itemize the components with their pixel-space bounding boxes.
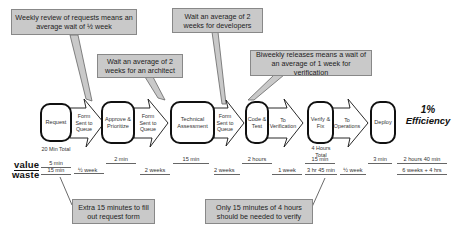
waste-cell-request: 15 min (41, 166, 71, 175)
process-request: Request (40, 103, 72, 142)
process-technical-assessment: Technical Assessment (170, 101, 215, 144)
value-cell-verify: 15 min (305, 155, 335, 164)
transition-label-1: Form Sent to Queue (72, 110, 96, 136)
transition-label-3: Form Sent to Queue (214, 110, 236, 136)
process-approve-label: Approve & Prioritize (103, 116, 133, 130)
waste-cell-queue-1: ½ week (74, 166, 104, 174)
value-cell-code: 2 hours (242, 155, 272, 164)
process-request-label: Request (46, 119, 67, 126)
request-total-note: 20 Min Total (33, 146, 79, 153)
waste-cell-queue-3: 2 weeks (214, 166, 240, 175)
efficiency-label: Efficiency (400, 115, 455, 126)
transition-label-2: Form Sent to Queue (136, 110, 160, 136)
waste-cell-to-verification: 1 week (272, 166, 302, 175)
waste-cell-verify: 3 hr 45 min (305, 166, 337, 175)
waste-cell-to-operations: ½ week (340, 166, 366, 175)
value-cell-total: 2 hours 40 min (397, 155, 447, 164)
value-cell-approve: 2 min (106, 155, 136, 164)
waste-cell-total: 6 weeks + 4 hrs (397, 166, 447, 175)
efficiency-percent: 1% (408, 104, 448, 115)
process-code-label: Code & Test (247, 116, 267, 130)
waste-cell-queue-2: 2 weeks (140, 166, 170, 175)
value-cell-deploy: 3 min (368, 155, 392, 164)
waste-row-label: waste (12, 169, 39, 180)
transition-label-4: To Verification (268, 110, 298, 136)
transition-label-5: To Operations (333, 110, 361, 136)
process-approve-prioritize: Approve & Prioritize (101, 101, 135, 144)
value-cell-technical: 15 min (173, 155, 209, 164)
process-technical-label: Technical Assessment (172, 116, 213, 130)
process-deploy-label: Deploy (374, 119, 391, 126)
process-verify-label: Verify & Fix (309, 116, 332, 130)
process-deploy: Deploy (370, 101, 396, 144)
process-verify-fix: Verify & Fix (307, 101, 334, 144)
process-code-test: Code & Test (245, 101, 269, 144)
